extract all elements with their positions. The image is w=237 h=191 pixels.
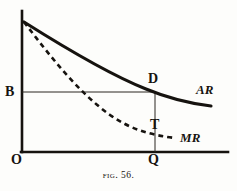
curve-label-mr: MR (180, 131, 201, 144)
point-label-q: Q (148, 153, 159, 167)
point-label-b: B (5, 85, 14, 99)
point-label-d: D (148, 72, 158, 86)
point-label-t: T (150, 118, 159, 132)
curve-label-ar: AR (196, 83, 214, 96)
average-revenue-curve (24, 22, 211, 106)
economics-figure: B D T Q O AR MR Fig. 56. (0, 0, 237, 191)
figure-caption-label: Fig. (103, 169, 119, 180)
origin-label-o: O (11, 153, 22, 167)
figure-caption-number: 56. (121, 170, 134, 180)
figure-caption: Fig. 56. (0, 169, 237, 180)
